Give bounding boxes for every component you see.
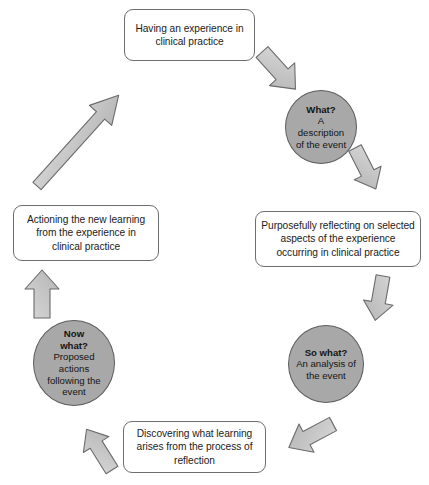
circle-what-body: A description of the event: [296, 115, 346, 150]
circle-so-what-title: So what?: [305, 347, 348, 359]
circle-so-what: So what? An analysis of the event: [288, 325, 364, 403]
circle-so-what-body: An analysis of the event: [296, 358, 356, 381]
arrow-reflecting-to-so-what-icon: [360, 273, 397, 323]
box-reflecting-text: Purposefully reflecting on selected aspe…: [261, 219, 414, 259]
arrow-so-what-to-discovering-icon: [281, 410, 340, 462]
box-actioning-text: Actioning the new learning from the expe…: [27, 213, 145, 253]
arrow-discovering-to-now-what-icon: [74, 421, 125, 478]
circle-what-title: What?: [306, 104, 335, 116]
circle-what: What? A description of the event: [285, 90, 357, 164]
arrow-now-what-to-actioning-icon: [25, 270, 59, 318]
box-discovering-what-learning: Discovering what learning arises from th…: [123, 421, 266, 473]
box-experience-text: Having an experience in clinical practic…: [135, 22, 243, 48]
circle-now-what-title: Now what?: [60, 328, 88, 351]
arrow-experience-to-what-icon: [249, 41, 308, 101]
box-actioning-the-new-learning: Actioning the new learning from the expe…: [13, 205, 159, 261]
circle-now-what-body: Proposed actions following the event: [47, 351, 100, 397]
circle-now-what: Now what? Proposed actions following the…: [33, 320, 115, 406]
reflective-cycle-diagram: Having an experience in clinical practic…: [0, 0, 429, 485]
arrow-actioning-to-experience-icon: [26, 85, 130, 196]
box-discovering-text: Discovering what learning arises from th…: [137, 427, 253, 467]
box-having-an-experience: Having an experience in clinical practic…: [124, 9, 255, 61]
box-purposefully-reflecting: Purposefully reflecting on selected aspe…: [255, 211, 421, 267]
